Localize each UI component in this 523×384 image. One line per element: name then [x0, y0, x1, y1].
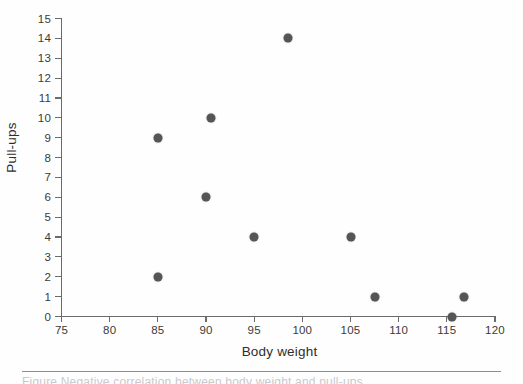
data-point: [460, 292, 469, 301]
data-point: [250, 233, 259, 242]
y-tick-label: 0: [5, 311, 51, 323]
x-axis-title-text: Body weight: [242, 344, 318, 359]
y-tick-mark: [55, 296, 61, 297]
y-tick-mark: [55, 97, 61, 98]
x-tick-mark: [302, 316, 303, 322]
x-tick-mark: [494, 316, 495, 322]
y-tick-mark: [55, 117, 61, 118]
x-tick-label: 90: [199, 324, 212, 336]
y-tick-label: 12: [5, 72, 51, 84]
y-tick-label: 15: [5, 13, 51, 25]
figure-container: 7580859095100105110115120 01234567891011…: [0, 0, 523, 384]
x-tick-mark: [205, 316, 206, 322]
x-tick-mark: [109, 316, 110, 322]
y-tick-mark: [55, 177, 61, 178]
y-tick-mark: [55, 276, 61, 277]
x-tick-label: 105: [341, 324, 361, 336]
y-axis-line: [61, 18, 62, 317]
x-tick-label: 110: [389, 324, 408, 336]
y-tick-label: 2: [5, 271, 51, 283]
y-tick-mark: [55, 316, 61, 317]
y-tick-mark: [55, 38, 61, 39]
y-tick-label: 3: [5, 251, 51, 263]
y-tick-label: 14: [5, 32, 51, 44]
figure-caption: Figure Negative correlation between body…: [22, 375, 501, 384]
x-tick-mark: [157, 316, 158, 322]
x-tick-label: 115: [437, 324, 456, 336]
data-point: [370, 292, 379, 301]
y-tick-mark: [55, 157, 61, 158]
x-tick-mark: [350, 316, 351, 322]
y-tick-label: 4: [5, 231, 51, 243]
y-tick-mark: [55, 236, 61, 237]
scatter-plot: 7580859095100105110115120 01234567891011…: [0, 0, 523, 384]
data-point: [447, 312, 456, 321]
data-point: [206, 113, 215, 122]
x-axis-line: [61, 316, 495, 317]
data-point: [346, 233, 355, 242]
x-tick-mark: [398, 316, 399, 322]
x-tick-label: 85: [151, 324, 164, 336]
y-tick-label: 5: [5, 211, 51, 223]
x-tick-label: 80: [103, 324, 116, 336]
y-tick-mark: [55, 137, 61, 138]
data-point: [153, 272, 162, 281]
y-tick-label: 13: [5, 52, 51, 64]
y-tick-mark: [55, 256, 61, 257]
caption-divider: [22, 371, 501, 372]
data-point: [153, 133, 162, 142]
y-tick-label: 1: [5, 291, 51, 303]
y-tick-mark: [55, 197, 61, 198]
x-tick-mark: [61, 316, 62, 322]
y-tick-mark: [55, 18, 61, 19]
x-tick-label: 95: [248, 324, 261, 336]
data-point: [202, 193, 211, 202]
x-tick-mark: [254, 316, 255, 322]
y-axis-title: Pull-ups: [4, 88, 19, 208]
y-tick-mark: [55, 78, 61, 79]
x-tick-label: 75: [55, 324, 68, 336]
data-point: [283, 34, 292, 43]
x-axis-title: Body weight: [0, 344, 523, 359]
y-tick-mark: [55, 217, 61, 218]
x-tick-label: 120: [485, 324, 505, 336]
y-tick-mark: [55, 58, 61, 59]
x-tick-label: 100: [292, 324, 312, 336]
